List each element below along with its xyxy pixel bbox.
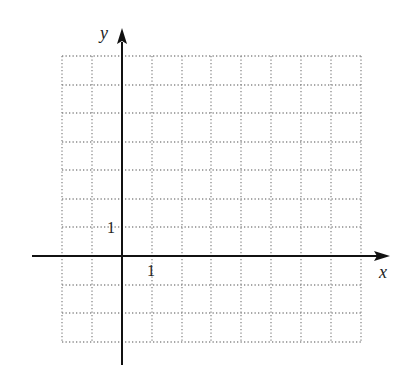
y-axis-label: y <box>98 23 108 43</box>
x-axis-label: x <box>378 262 387 282</box>
coordinate-plane: x y 1 1 <box>0 0 418 366</box>
y-tick-label-1: 1 <box>107 219 115 236</box>
grid <box>62 56 361 342</box>
y-axis <box>117 28 127 365</box>
x-tick-label-1: 1 <box>147 262 155 279</box>
y-axis-arrow-icon <box>117 28 127 44</box>
